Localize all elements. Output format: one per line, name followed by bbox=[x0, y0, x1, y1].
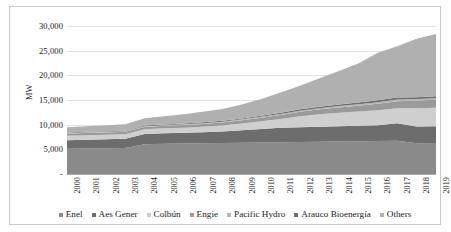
x-axis-tick: 2013 bbox=[325, 177, 334, 194]
y-axis-tick: - bbox=[60, 169, 63, 179]
legend-label: Aes Gener bbox=[99, 210, 138, 219]
legend-label: Arauco Bioenergía bbox=[301, 210, 370, 219]
x-axis-tick: 2004 bbox=[150, 177, 159, 194]
legend-item[interactable]: Engie bbox=[190, 210, 218, 219]
legend-swatch-icon bbox=[147, 213, 151, 217]
x-axis-tick: 2003 bbox=[131, 177, 140, 194]
x-axis-tick: 2001 bbox=[92, 177, 101, 194]
y-axis-tick: 5,000 bbox=[43, 144, 63, 154]
legend-swatch-icon bbox=[59, 213, 63, 217]
x-axis-tick: 2018 bbox=[422, 177, 431, 194]
legend-item[interactable]: Pacific Hydro bbox=[227, 210, 285, 219]
chart-frame: MW 30,00025,00020,00015,00010,0005,000- … bbox=[9, 6, 441, 225]
x-axis-tick: 2015 bbox=[364, 177, 373, 194]
legend-swatch-icon bbox=[92, 213, 96, 217]
plot-area bbox=[67, 26, 436, 174]
y-axis-tick: 25,000 bbox=[39, 46, 63, 56]
x-axis-tick: 2006 bbox=[189, 177, 198, 194]
x-axis-tick: 2010 bbox=[267, 177, 276, 194]
legend-label: Engie bbox=[197, 210, 218, 219]
x-axis-tick: 2016 bbox=[383, 177, 392, 194]
legend-item[interactable]: Others bbox=[380, 210, 412, 219]
gridline bbox=[67, 174, 436, 175]
legend-item[interactable]: Colbún bbox=[147, 210, 181, 219]
x-axis-tick: 2011 bbox=[286, 177, 295, 193]
stacked-area-series bbox=[67, 26, 436, 174]
x-axis-tick: 2009 bbox=[248, 177, 257, 194]
x-axis-tick: 2008 bbox=[228, 177, 237, 194]
legend-swatch-icon bbox=[190, 213, 194, 217]
x-axis-tick: 2005 bbox=[170, 177, 179, 194]
x-axis-tick: 2012 bbox=[306, 177, 315, 194]
y-axis-tick-labels: 30,00025,00020,00015,00010,0005,000- bbox=[19, 26, 67, 174]
x-axis-tick: 2017 bbox=[403, 177, 412, 194]
chart-legend: EnelAes GenerColbúnEngiePacific HydroAra… bbox=[19, 210, 451, 219]
x-axis-tick: 2019 bbox=[442, 177, 451, 194]
y-axis-tick: 30,000 bbox=[39, 21, 63, 31]
legend-label: Others bbox=[387, 210, 412, 219]
y-axis-tick: 15,000 bbox=[39, 95, 63, 105]
legend-label: Colbún bbox=[154, 210, 181, 219]
y-axis-tick: 20,000 bbox=[39, 70, 63, 80]
area-chart-svg bbox=[67, 26, 436, 174]
legend-item[interactable]: Aes Gener bbox=[92, 210, 138, 219]
x-axis-tick-labels: 2000200120022003200420052006200720082009… bbox=[67, 176, 436, 207]
legend-label: Enel bbox=[66, 210, 83, 219]
legend-swatch-icon bbox=[227, 213, 231, 217]
y-axis-tick: 10,000 bbox=[39, 120, 63, 130]
legend-swatch-icon bbox=[380, 213, 384, 217]
x-axis-tick: 2014 bbox=[345, 177, 354, 194]
x-axis-tick: 2007 bbox=[209, 177, 218, 194]
x-axis-tick: 2002 bbox=[112, 177, 121, 194]
legend-item[interactable]: Enel bbox=[59, 210, 83, 219]
legend-item[interactable]: Arauco Bioenergía bbox=[294, 210, 370, 219]
legend-swatch-icon bbox=[294, 213, 298, 217]
x-axis-tick: 2000 bbox=[73, 177, 82, 194]
legend-label: Pacific Hydro bbox=[234, 210, 285, 219]
